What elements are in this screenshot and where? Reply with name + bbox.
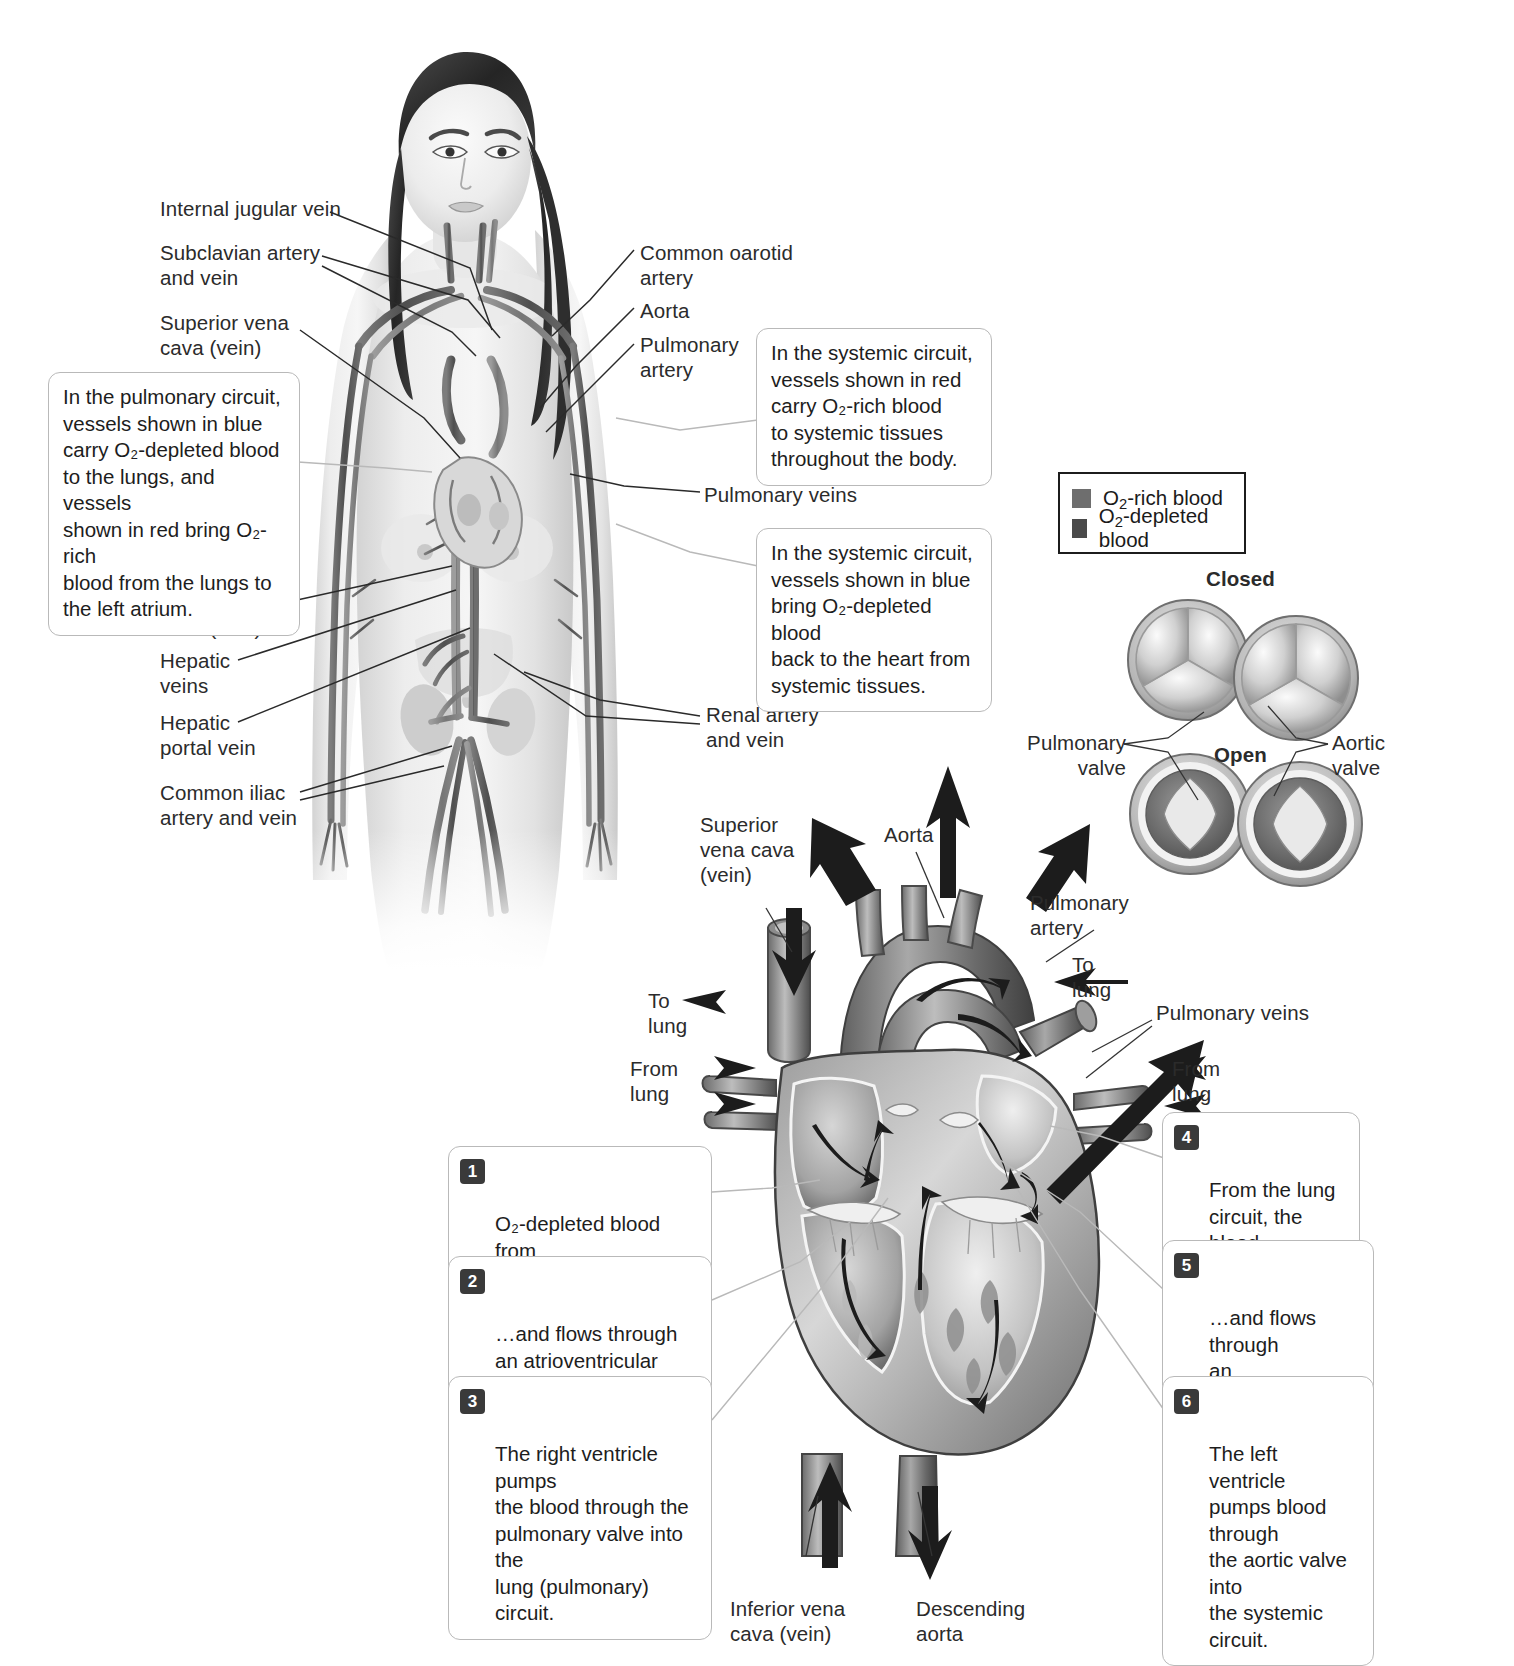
label-heart-pulmonary-artery: Pulmonary artery <box>1030 890 1129 940</box>
label-heart-inferior-vena-cava: Inferior vena cava (vein) <box>730 1596 845 1646</box>
valve-open-pair <box>1130 754 1362 886</box>
flow-step-4-number: 4 <box>1174 1125 1199 1150</box>
valve-closed-label: Closed <box>1206 566 1275 591</box>
label-pulmonary-veins: Pulmonary veins <box>704 482 857 507</box>
label-heart-to-lung-right: To lung <box>1072 952 1111 1002</box>
flow-step-6: 6 The left ventricle pumps blood through… <box>1162 1376 1374 1666</box>
callout-pulmonary-circuit: In the pulmonary circuit, vessels shown … <box>48 372 300 636</box>
legend-swatch-o2-rich <box>1072 489 1091 508</box>
flow-step-2-number: 2 <box>460 1269 485 1294</box>
label-pulmonary-artery: Pulmonary artery <box>640 332 739 382</box>
label-heart-descending-aorta: Descending aorta <box>916 1596 1025 1646</box>
valve-pulmonary-label: Pulmonary valve <box>1022 730 1126 780</box>
flow-step-3-text: The right ventricle pumps the blood thro… <box>495 1442 689 1624</box>
label-heart-aorta: Aorta <box>884 822 934 847</box>
label-aorta: Aorta <box>640 298 690 323</box>
label-hepatic-veins: Hepatic veins <box>160 648 230 698</box>
label-common-carotid-artery: Common oarotid artery <box>640 240 793 290</box>
label-heart-from-lung-right: From lung <box>1172 1056 1220 1106</box>
blood-legend: O2-rich blood O2-depleted blood <box>1058 472 1246 554</box>
flow-step-3-number: 3 <box>460 1389 485 1414</box>
flow-step-3: 3 The right ventricle pumps the blood th… <box>448 1376 712 1640</box>
label-hepatic-portal-vein: Hepatic portal vein <box>160 710 256 760</box>
valve-closed-pair <box>1128 600 1358 740</box>
valve-open-label: Open <box>1214 742 1267 767</box>
label-heart-to-lung-left: To lung <box>648 988 698 1038</box>
valve-aortic-label: Aortic valve <box>1332 730 1385 780</box>
label-superior-vena-cava: Superior vena cava (vein) <box>160 310 289 360</box>
legend-swatch-o2-depleted <box>1072 519 1087 538</box>
flow-step-6-text: The left ventricle pumps blood through t… <box>1209 1442 1347 1651</box>
label-heart-from-lung-left: From lung <box>630 1056 678 1106</box>
label-subclavian: Subclavian artery and vein <box>160 240 320 290</box>
callout-systemic-blue: In the systemic circuit, vessels shown i… <box>756 528 992 712</box>
legend-item-o2-depleted: O2-depleted blood <box>1072 513 1228 543</box>
flow-step-6-number: 6 <box>1174 1389 1199 1414</box>
label-common-iliac: Common iliac artery and vein <box>160 780 297 830</box>
flow-step-5-number: 5 <box>1174 1253 1199 1278</box>
callout-systemic-red: In the systemic circuit, vessels shown i… <box>756 328 992 486</box>
label-heart-superior-vena-cava: Superior vena cava (vein) <box>700 812 794 887</box>
flow-step-1-number: 1 <box>460 1159 485 1184</box>
body-illustration <box>255 40 675 970</box>
label-heart-pulmonary-veins: Pulmonary veins <box>1156 1000 1309 1025</box>
label-internal-jugular-vein: Internal jugular vein <box>160 196 341 221</box>
